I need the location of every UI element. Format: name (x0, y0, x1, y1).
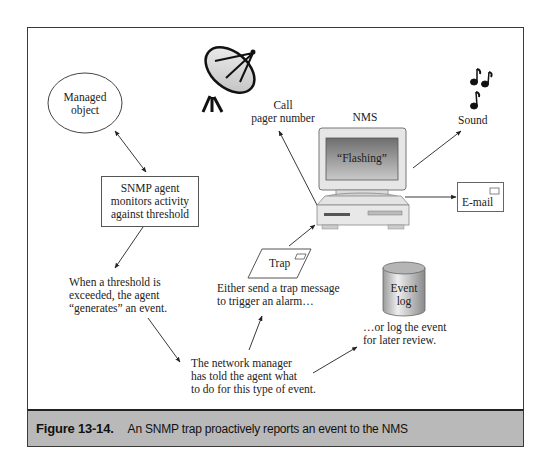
manager-note: The network manager has told the agent w… (191, 357, 316, 396)
snmp-agent-line3: against threshold (102, 208, 198, 221)
manager-note-line3: to do for this type of event. (191, 383, 316, 396)
pager-line2: pager number (243, 112, 323, 125)
figure-number: Figure 13-14. (36, 421, 114, 436)
managed-object-line2: object (62, 104, 108, 117)
arrow-object-agent (115, 131, 146, 172)
sound-label: Sound (458, 114, 487, 127)
nms-label: NMS (345, 111, 385, 124)
diagram-canvas (0, 0, 551, 469)
log-note: …or log the event for later review. (363, 321, 446, 347)
event-log-label: Event log (383, 282, 425, 308)
arrow-manager-log (313, 347, 357, 373)
managed-object-label: Managed object (62, 91, 108, 117)
trap-label: Trap (269, 257, 290, 270)
threshold-note-line2: exceeded, the agent (69, 289, 167, 302)
figure-caption-text: An SNMP trap proactively reports an even… (128, 422, 408, 436)
arrow-manager-trap (249, 316, 262, 350)
music-notes-icon (471, 69, 492, 109)
pager-label: Call pager number (243, 99, 323, 125)
trap-note-line2: to trigger an alarm… (217, 295, 340, 308)
arrow-threshold-manager (148, 318, 180, 362)
nms-screen-text: “Flashing” (326, 152, 398, 165)
managed-object-line1: Managed (62, 91, 108, 104)
pager-line1: Call (243, 99, 323, 112)
threshold-note: When a threshold is exceeded, the agent … (69, 276, 167, 315)
manager-note-line2: has told the agent what (191, 370, 316, 383)
trap-note: Either send a trap message to trigger an… (217, 282, 340, 308)
snmp-agent-line2: monitors activity (102, 195, 198, 208)
arrow-agent-threshold (115, 227, 143, 268)
trap-note-line1: Either send a trap message (217, 282, 340, 295)
event-log-line1: Event (383, 282, 425, 295)
snmp-agent-line1: SNMP agent (102, 182, 198, 195)
arrow-nms-sound (413, 131, 461, 168)
snmp-agent-label: SNMP agent monitors activity against thr… (102, 182, 198, 221)
arrow-trap-nms (289, 225, 315, 246)
log-note-line2: for later review. (363, 334, 446, 347)
threshold-note-line1: When a threshold is (69, 276, 167, 289)
email-label: E-mail (462, 196, 493, 209)
event-log-line2: log (383, 295, 425, 308)
arrow-nms-pager (279, 131, 318, 207)
log-note-line1: …or log the event (363, 321, 446, 334)
manager-note-line1: The network manager (191, 357, 316, 370)
threshold-note-line3: “generates” an event. (69, 302, 167, 315)
computer-icon (317, 128, 409, 229)
figure-caption: Figure 13-14. An SNMP trap proactively r… (27, 409, 524, 447)
